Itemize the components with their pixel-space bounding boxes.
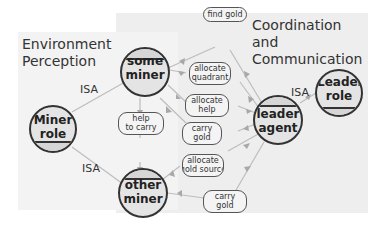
message-find-gold[interactable]: find gold [203, 7, 247, 22]
node-some-miner[interactable]: some miner [120, 47, 170, 97]
isa-label-other-miner: ISA [82, 162, 100, 175]
message-allocate-gold-source[interactable]: allocate gold source [182, 154, 224, 177]
message-allocate-help[interactable]: allocate help [185, 94, 229, 117]
message-allocate-quadrant[interactable]: allocate quadrant [189, 62, 231, 85]
node-leader-agent[interactable]: leader agent [253, 95, 303, 145]
isa-label-some-miner: ISA [80, 83, 98, 96]
node-leader-role[interactable]: Leader role [315, 69, 363, 117]
node-miner-role[interactable]: Miner role [29, 105, 77, 153]
message-help-to-carry[interactable]: help to carry [118, 112, 164, 135]
message-carry-gold-1[interactable]: carry gold [182, 122, 222, 145]
node-other-miner[interactable]: other miner [118, 168, 168, 218]
message-carry-gold-2[interactable]: carry gold [203, 190, 247, 213]
isa-label-leader: ISA [291, 86, 309, 99]
